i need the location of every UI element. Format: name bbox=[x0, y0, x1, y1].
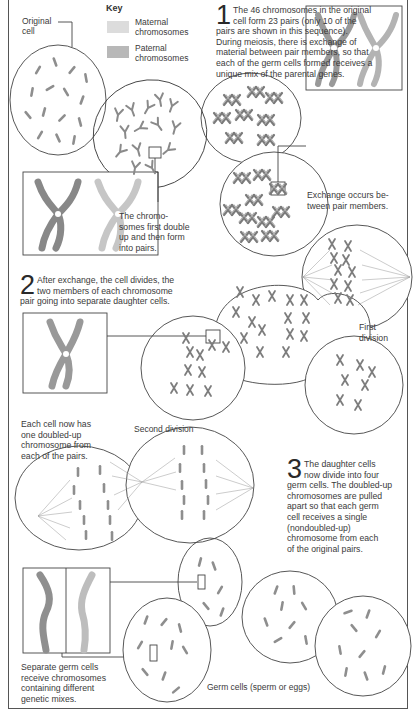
maternal-label: Maternalchromosomes bbox=[135, 17, 188, 37]
original-cell-leader bbox=[58, 22, 72, 47]
original-chromosomes bbox=[24, 57, 88, 145]
second-division-label: Second division bbox=[134, 424, 194, 435]
step-3-text: 3The daughter cellsnow divide into fourg… bbox=[287, 459, 407, 554]
double-up-label: The chromo-somes first doubleup and then… bbox=[119, 211, 190, 253]
step-1-text: 1The 46 chromosomes in the originalcell … bbox=[216, 5, 406, 79]
meiosis-illustration bbox=[0, 0, 417, 720]
doubled-chromosomes bbox=[113, 93, 180, 175]
paternal-label: Paternalchromosomes bbox=[135, 43, 188, 63]
first-division-label: Firstdivision bbox=[359, 322, 388, 343]
separate-germ-label: Separate germ cellsreceive chromosomesco… bbox=[21, 662, 106, 704]
step-3-number: 3 bbox=[287, 459, 302, 480]
step-2-text: 2After exchange, the cell divides, thetw… bbox=[20, 275, 230, 307]
step-2-number: 2 bbox=[20, 275, 35, 296]
original-cell-label: Originalcell bbox=[22, 16, 51, 36]
key-title: Key bbox=[106, 3, 123, 14]
germ-cells-label: Germ cells (sperm or eggs) bbox=[207, 682, 310, 693]
step-1-number: 1 bbox=[216, 5, 231, 26]
each-cell-label: Each cell now hasone doubled-upchromosom… bbox=[21, 419, 91, 461]
exchange-label: Exchange occurs be-tween pair members. bbox=[307, 190, 389, 211]
paternal-swatch bbox=[107, 46, 129, 58]
maternal-swatch bbox=[107, 21, 129, 33]
